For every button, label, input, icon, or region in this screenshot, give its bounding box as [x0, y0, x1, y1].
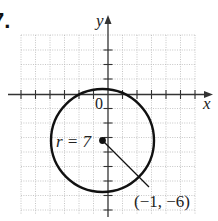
y-axis-label: y [94, 11, 104, 30]
y-axis-arrow-icon [105, 15, 112, 24]
x-axis-label: x [202, 94, 211, 113]
radius-segment [103, 141, 150, 188]
x-axis [8, 90, 213, 99]
center-point [99, 137, 106, 144]
circle-diagram: 7. [0, 0, 218, 221]
center-coordinate-label: (−1, −6) [134, 192, 190, 211]
radius-label: r = 7 [56, 132, 93, 151]
problem-number: 7. [0, 8, 10, 33]
y-axis [104, 15, 113, 217]
origin-label: 0 [95, 95, 103, 112]
